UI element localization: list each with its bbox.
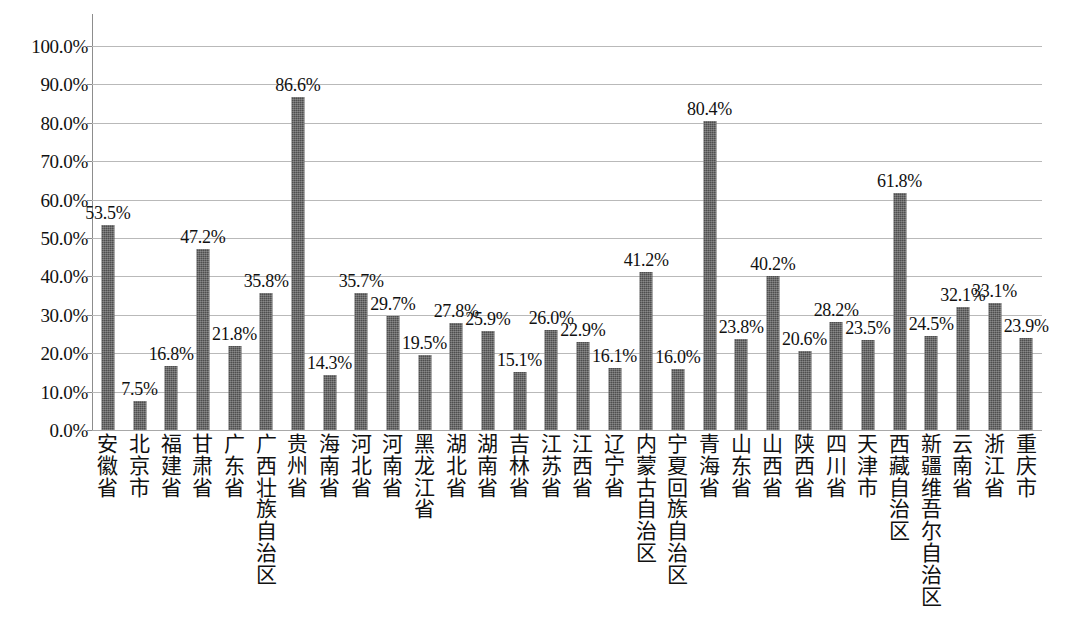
- bar-group[interactable]: 16.1%: [600, 14, 630, 430]
- bar[interactable]: [291, 97, 304, 430]
- category-label-char: 区: [663, 565, 693, 587]
- bar[interactable]: [450, 323, 463, 430]
- category-label-char: 州: [283, 456, 313, 478]
- category-label-char: 西: [758, 456, 788, 478]
- bar[interactable]: [386, 316, 399, 430]
- category-label-char: 治: [916, 565, 946, 587]
- bar[interactable]: [260, 293, 273, 430]
- bar[interactable]: [766, 276, 779, 430]
- y-axis-tick-mark: [87, 315, 92, 316]
- bar[interactable]: [576, 342, 589, 430]
- bar-group[interactable]: 22.9%: [568, 14, 598, 430]
- category-label-char: 藏: [885, 456, 915, 478]
- bar[interactable]: [355, 293, 368, 430]
- bar-group[interactable]: 47.2%: [188, 14, 218, 430]
- bar[interactable]: [481, 331, 494, 430]
- bar[interactable]: [101, 225, 114, 430]
- category-label-char: 北: [125, 434, 155, 456]
- x-axis-category-label: 内蒙古自治区: [631, 434, 661, 565]
- category-label-char: 西: [885, 434, 915, 456]
- category-label-char: 山: [758, 434, 788, 456]
- y-axis-tick-mark: [87, 238, 92, 239]
- bar-group[interactable]: 7.5%: [125, 14, 155, 430]
- bar[interactable]: [545, 330, 558, 430]
- bar-group[interactable]: 15.1%: [505, 14, 535, 430]
- bar[interactable]: [640, 272, 653, 430]
- category-label-char: 省: [790, 478, 820, 500]
- bar-group[interactable]: 20.6%: [790, 14, 820, 430]
- bar[interactable]: [608, 368, 621, 430]
- bar[interactable]: [830, 322, 843, 430]
- bar[interactable]: [925, 336, 938, 430]
- bar[interactable]: [798, 351, 811, 430]
- category-label-char: 甘: [188, 434, 218, 456]
- bar[interactable]: [861, 340, 874, 430]
- y-axis-tick-mark: [87, 123, 92, 124]
- bar-group[interactable]: 27.8%: [441, 14, 471, 430]
- category-label-char: 林: [505, 456, 535, 478]
- bar-group[interactable]: 29.7%: [378, 14, 408, 430]
- bar-group[interactable]: 23.9%: [1011, 14, 1041, 430]
- x-axis-category-label: 山东省: [726, 434, 756, 499]
- bar[interactable]: [513, 372, 526, 430]
- bar-group[interactable]: 53.5%: [93, 14, 123, 430]
- category-label-char: 古: [631, 478, 661, 500]
- bar-group[interactable]: 35.7%: [346, 14, 376, 430]
- y-axis-tick-mark: [87, 46, 92, 47]
- bar-group[interactable]: 16.0%: [663, 14, 693, 430]
- category-label-char: 天: [853, 434, 883, 456]
- category-label-char: 壮: [251, 478, 281, 500]
- x-axis-category-label: 广西壮族自治区: [251, 434, 281, 587]
- category-label-char: 省: [473, 478, 503, 500]
- bar-group[interactable]: 41.2%: [631, 14, 661, 430]
- category-label-char: 京: [125, 456, 155, 478]
- category-label-char: 蒙: [631, 456, 661, 478]
- bar-group[interactable]: 14.3%: [315, 14, 345, 430]
- category-label-char: 省: [346, 478, 376, 500]
- bar-group[interactable]: 23.5%: [853, 14, 883, 430]
- category-label-char: 夏: [663, 456, 693, 478]
- bar-group[interactable]: 40.2%: [758, 14, 788, 430]
- bar-group[interactable]: 61.8%: [885, 14, 915, 430]
- bar-group[interactable]: 28.2%: [821, 14, 851, 430]
- category-label-char: 重: [1011, 434, 1041, 456]
- bar-group[interactable]: 21.8%: [220, 14, 250, 430]
- x-axis-baseline: [92, 430, 1042, 431]
- category-label-char: 治: [885, 499, 915, 521]
- bar[interactable]: [228, 346, 241, 430]
- x-axis-category-label: 贵州省: [283, 434, 313, 499]
- category-label-char: 区: [251, 565, 281, 587]
- bar[interactable]: [671, 369, 684, 430]
- bar-group[interactable]: 80.4%: [695, 14, 725, 430]
- bar[interactable]: [165, 366, 178, 431]
- bar[interactable]: [323, 375, 336, 430]
- category-label-char: 省: [821, 478, 851, 500]
- category-label-char: 省: [156, 478, 186, 500]
- bar[interactable]: [956, 307, 969, 430]
- category-label-char: 吉: [505, 434, 535, 456]
- bar-group[interactable]: 32.1%: [948, 14, 978, 430]
- bar-group[interactable]: 26.0%: [536, 14, 566, 430]
- bar[interactable]: [988, 303, 1001, 430]
- x-axis-category-label: 福建省: [156, 434, 186, 499]
- plot-area: 53.5%7.5%16.8%47.2%21.8%35.8%86.6%14.3%3…: [92, 14, 1042, 430]
- bar[interactable]: [893, 193, 906, 430]
- bar-group[interactable]: 33.1%: [980, 14, 1010, 430]
- bar[interactable]: [703, 121, 716, 430]
- bar[interactable]: [1020, 338, 1033, 430]
- bar[interactable]: [418, 355, 431, 430]
- bar[interactable]: [133, 401, 146, 430]
- bar[interactable]: [735, 339, 748, 430]
- bar-group[interactable]: 24.5%: [916, 14, 946, 430]
- bar-group[interactable]: 23.8%: [726, 14, 756, 430]
- bar-group[interactable]: 16.8%: [156, 14, 186, 430]
- x-axis-category-label: 湖北省: [441, 434, 471, 499]
- bar[interactable]: [196, 249, 209, 430]
- x-axis-category-label: 陕西省: [790, 434, 820, 499]
- category-label-char: 云: [948, 434, 978, 456]
- y-axis-tick-label: 20.0%: [40, 344, 88, 363]
- bar-group[interactable]: 19.5%: [410, 14, 440, 430]
- x-axis-category-label: 山西省: [758, 434, 788, 499]
- category-label-char: 自: [916, 543, 946, 565]
- x-axis-category-label: 宁夏回族自治区: [663, 434, 693, 587]
